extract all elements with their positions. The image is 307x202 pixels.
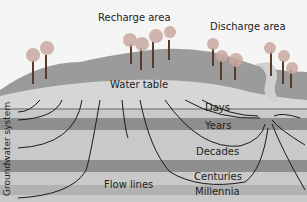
- years-label: Years: [205, 121, 231, 131]
- water-table-label: Water table: [110, 80, 168, 90]
- discharge-area-label: Discharge area: [210, 22, 286, 32]
- recharge-area-label: Recharge area: [98, 13, 171, 23]
- days-label: Days: [205, 103, 230, 113]
- decades-label: Decades: [196, 147, 239, 157]
- centuries-label: Centuries: [194, 172, 242, 182]
- layer-mid: [0, 185, 307, 195]
- layer-dark-1: [0, 118, 307, 130]
- millennia-label: Millennia: [195, 187, 240, 197]
- groundwater-diagram: Recharge area Discharge area Water table…: [0, 0, 307, 202]
- groundwater-system-label: Groundwater system: [2, 102, 12, 196]
- layer-dark-2: [0, 160, 307, 172]
- flow-lines-label: Flow lines: [104, 180, 153, 190]
